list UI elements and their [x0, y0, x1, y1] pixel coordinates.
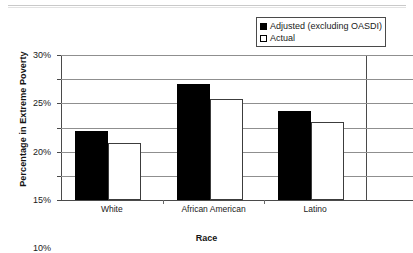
x-axis-tick [264, 200, 265, 204]
y-axis-title: Percentage in Extreme Poverty [18, 34, 28, 204]
bar-african-american-adjusted [177, 84, 210, 200]
bar-african-american-actual [210, 99, 243, 201]
category-label-latino: Latino [304, 205, 327, 214]
scan-artifact-line [8, 5, 406, 6]
bar-white-adjusted [75, 131, 108, 200]
legend-swatch-filled-icon [260, 23, 267, 30]
x-axis-tick [163, 200, 164, 204]
category-label-white: White [101, 205, 123, 214]
y-axis-tick: 0% [57, 200, 61, 201]
bar-latino-actual [311, 122, 344, 200]
y-axis-tick-label: 10% [33, 244, 51, 253]
x-axis-title: Race [0, 233, 413, 243]
legend-swatch-hollow-icon [260, 35, 267, 42]
y-axis-tick-label: 20% [33, 147, 51, 156]
legend-label-actual: Actual [270, 34, 295, 43]
y-axis-tick-label: 30% [33, 51, 51, 60]
bars-layer [61, 55, 366, 200]
legend-label-adjusted: Adjusted (excluding OASDI) [270, 22, 382, 31]
bar-latino-adjusted [278, 111, 311, 200]
legend-entry-adjusted: Adjusted (excluding OASDI) [260, 20, 382, 32]
bar-white-actual [108, 143, 141, 200]
scan-artifact-line-secondary [8, 7, 406, 8]
category-label-african-american: African American [181, 205, 245, 214]
legend-entry-actual: Actual [260, 32, 382, 44]
chart-legend: Adjusted (excluding OASDI) Actual [256, 17, 386, 47]
y-axis-tick-label: 25% [33, 99, 51, 108]
plot-area: 0%5%10%15%20%25%30% WhiteAfrican America… [61, 55, 366, 200]
y-axis-tick-label: 15% [33, 196, 51, 205]
gridline-0% [61, 200, 413, 201]
